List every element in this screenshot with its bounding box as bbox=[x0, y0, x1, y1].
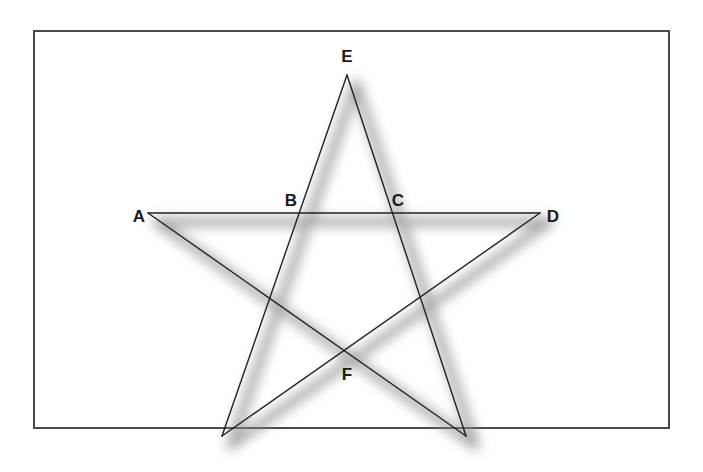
vertex-label-f: F bbox=[342, 365, 352, 384]
vertex-label-c: C bbox=[392, 191, 404, 210]
vertex-label-e: E bbox=[341, 47, 352, 66]
diagram-canvas: EADBCF bbox=[0, 0, 703, 472]
vertex-label-b: B bbox=[285, 191, 297, 210]
vertex-label-d: D bbox=[547, 207, 559, 226]
vertex-label-a: A bbox=[133, 207, 145, 226]
